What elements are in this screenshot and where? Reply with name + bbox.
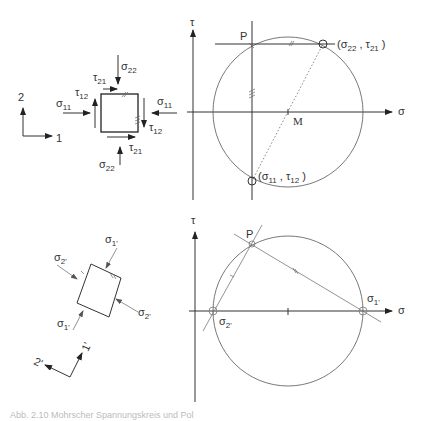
sigma2p-left-label: σ2' <box>54 251 67 266</box>
tau21-top-label: τ21 <box>93 71 107 86</box>
sigma2p-right-label: σ2' <box>138 306 151 321</box>
sigma2p-label: σ2' <box>219 315 232 330</box>
sigma2p-right-arrow-icon <box>116 299 138 312</box>
rotated-stress-element-square <box>77 264 121 317</box>
top-left-stress-element: 2 1 σ22 σ22 σ11 σ11 τ21 τ21 τ12 τ12 <box>18 55 177 173</box>
mohr-circle-figure: 2 1 σ22 σ22 σ11 σ11 τ21 τ21 τ12 τ12 <box>0 0 427 421</box>
sigma1p-top-label: σ1' <box>105 233 118 248</box>
axis-2p-label: 2' <box>32 355 45 369</box>
tau12-right-label: τ12 <box>149 121 163 136</box>
pole-p-label: P <box>240 30 247 42</box>
figure-caption-fragment: Abb. 2.10 Mohrscher Spannungskreis und P… <box>10 410 420 421</box>
sigma11-right-label: σ11 <box>157 95 173 110</box>
axis-1p-arrow-icon <box>70 353 82 377</box>
pole-p-label: P <box>246 228 253 240</box>
hatch-marks-icon <box>230 268 298 277</box>
tau12-left-label: τ12 <box>75 86 89 101</box>
axis-1-label: 1 <box>56 132 62 144</box>
sigma11-left-label: σ11 <box>56 97 72 112</box>
axis-2-label: 2 <box>18 91 24 103</box>
axis-1p-label: 1' <box>79 340 93 353</box>
point-sigma11-tau12-label: (σ11 , τ12 ) <box>258 170 306 185</box>
sigma1p-bottom-label: σ1' <box>57 317 70 332</box>
point-sigma22-tau21-label: (σ22 , τ21 ) <box>337 38 386 53</box>
bottom-mohr-circle-plot: τ σ P σ1' σ2' <box>189 214 405 402</box>
sigma22-bottom-label: σ22 <box>99 158 115 173</box>
sigma1p-top-arrow-icon <box>106 248 117 268</box>
stress-element-square <box>101 94 138 132</box>
sigma1p-label: σ1' <box>367 292 380 307</box>
tau-axis-label: τ <box>190 16 195 28</box>
sigma22-top-label: σ22 <box>121 60 137 75</box>
tau-axis-label: τ <box>191 214 196 226</box>
top-mohr-circle-plot: τ σ P M (σ22 , τ21 ) (σ11 , τ12 ) <box>187 16 405 200</box>
rotated-coordinate-axes: 1' 2' <box>32 340 93 377</box>
tau21-bottom-label: τ21 <box>129 141 143 156</box>
hatch-marks-icon <box>249 41 294 98</box>
sigma-axis-label: σ <box>398 304 405 316</box>
axis-2p-arrow-icon <box>45 365 70 377</box>
hatch-marks-icon <box>122 92 140 124</box>
center-m-label: M <box>293 115 303 127</box>
sigma2p-left-arrow-icon <box>57 265 77 279</box>
pole-to-sigma1p-line <box>234 234 381 322</box>
bottom-left-rotated-element: σ1' σ1' σ2' σ2' 1' 2' <box>32 233 151 377</box>
sigma-axis-label: σ <box>398 105 405 117</box>
sigma1p-bottom-arrow-icon <box>73 311 83 330</box>
